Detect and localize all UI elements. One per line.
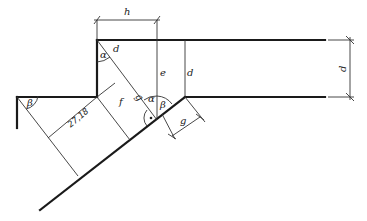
stringer-bottom-line [40,97,185,210]
right-angle-dot [150,117,153,120]
dimension-d-right: d [337,36,354,101]
label-d-diag: d [113,43,119,54]
label-g-diag: g [133,91,146,103]
label-e: e [160,67,166,78]
label-h: h [124,6,130,17]
right-angle-arc [144,110,147,126]
label-alpha-mid: α [148,93,155,104]
label-d-right: d [337,66,348,72]
stair-diagram: h d g α d β e d f g α β 27,18 [0,0,367,221]
label-f: f [118,96,125,107]
label-d-inner: d [187,67,193,78]
label-g-dim: g [180,115,186,126]
label-beta-mid: β [159,99,166,110]
perp-top-line [97,83,115,97]
label-alpha-top: α [100,49,107,60]
label-dimension-27-18: 27,18 [65,106,91,130]
perpendicular-f-line [97,97,130,140]
dimension-g: g [168,114,204,139]
label-beta-left: β [26,97,33,108]
dimension-h: h [94,6,160,24]
angle-arcs [26,57,172,126]
